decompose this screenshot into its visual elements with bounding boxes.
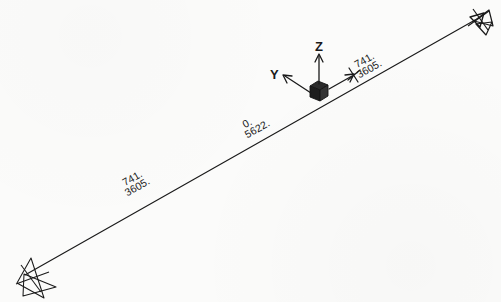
- arrow-left-icon-y: [283, 75, 311, 93]
- arrow-up-icon-z: [315, 54, 323, 84]
- diagram-vector-layer: [0, 0, 501, 302]
- figure-canvas: Z Y 741. 3605. 0. 5622. 741. 3605.: [0, 0, 501, 302]
- axis-label-z: Z: [315, 40, 323, 53]
- arrow-right-icon-x: [329, 74, 354, 89]
- axis-label-y: Y: [270, 68, 279, 81]
- boom-axis-line: [25, 20, 475, 275]
- antenna-fin-icon-left: [16, 258, 56, 298]
